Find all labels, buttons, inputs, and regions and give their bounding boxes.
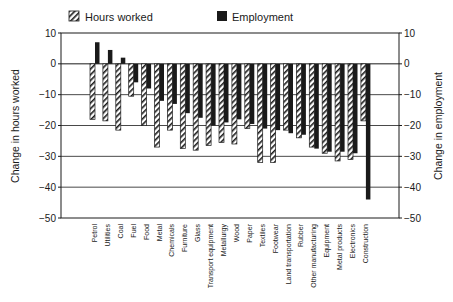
bar-employment xyxy=(263,64,268,129)
tick-label: −50 xyxy=(39,213,56,224)
tick-label: −40 xyxy=(404,182,421,193)
bar-employment xyxy=(250,64,255,124)
category-label: Construction xyxy=(362,224,369,263)
category-label: Coal xyxy=(117,224,124,239)
category-label: Electronics xyxy=(349,224,356,259)
category-label: Paper xyxy=(246,223,254,242)
category-label: Metallurgy xyxy=(220,224,228,257)
tick-label: −50 xyxy=(404,213,421,224)
bar-hours-worked xyxy=(116,64,121,130)
bars xyxy=(90,42,370,199)
bar-employment xyxy=(108,50,113,64)
category-label: Petrol xyxy=(91,224,98,243)
category-label: Footwear xyxy=(272,223,279,253)
bar-hours-worked xyxy=(322,64,327,153)
tick-label: 10 xyxy=(45,28,57,39)
bar-employment xyxy=(95,42,100,64)
category-label: Metal products xyxy=(336,224,344,270)
bar-hours-worked xyxy=(103,64,108,121)
bar-employment xyxy=(160,64,165,101)
bar-hours-worked xyxy=(180,64,185,149)
bar-employment xyxy=(340,64,345,152)
bar-employment xyxy=(237,64,242,119)
category-label: Transport equipment xyxy=(207,224,215,288)
tick-label: 0 xyxy=(50,58,56,69)
bar-hours-worked xyxy=(361,64,366,121)
bar-employment xyxy=(198,64,203,118)
left-axis-title: Change in hours worked xyxy=(9,69,21,183)
category-label: Furniture xyxy=(181,224,188,252)
bar-hours-worked xyxy=(348,64,353,160)
tick-label: −20 xyxy=(404,120,421,131)
category-label: Equipment xyxy=(323,224,331,258)
bar-employment xyxy=(172,64,177,104)
legend-label-employment: Employment xyxy=(232,11,293,23)
bar-hours-worked xyxy=(90,64,95,119)
bar-hours-worked xyxy=(335,64,340,161)
tick-label: −30 xyxy=(39,151,56,162)
bar-chart: Hours worked Employment 100−10−20−30−40−… xyxy=(0,0,453,302)
category-label: Land transportation xyxy=(285,224,293,284)
category-label: Rubber xyxy=(297,223,304,247)
bar-hours-worked xyxy=(142,64,147,126)
bar-employment xyxy=(276,64,281,130)
category-label: Metal xyxy=(156,224,163,242)
legend-item-hours-worked: Hours worked xyxy=(69,11,153,23)
bar-hours-worked xyxy=(155,64,160,147)
category-label: Wood xyxy=(233,224,240,242)
category-label: Textiles xyxy=(259,224,266,248)
bar-employment xyxy=(185,64,190,113)
bar-employment xyxy=(314,64,319,149)
bar-hours-worked xyxy=(167,64,172,130)
category-label: Fuel xyxy=(130,224,137,238)
tick-label: −10 xyxy=(404,89,421,100)
tick-label: 10 xyxy=(404,28,416,39)
bar-hours-worked xyxy=(296,64,301,138)
bar-employment xyxy=(327,64,332,152)
bar-employment xyxy=(301,64,306,135)
bar-employment xyxy=(353,64,358,153)
bar-hours-worked xyxy=(309,64,314,147)
tick-label: −30 xyxy=(404,151,421,162)
solid-swatch-icon xyxy=(217,11,227,21)
bar-hours-worked xyxy=(206,64,211,146)
bar-hours-worked xyxy=(245,64,250,129)
bar-hours-worked xyxy=(232,64,237,144)
bar-hours-worked xyxy=(219,64,224,143)
hatched-swatch-icon xyxy=(69,11,79,21)
category-label: Chemicals xyxy=(168,224,175,257)
bar-hours-worked xyxy=(129,64,134,96)
legend-item-employment: Employment xyxy=(217,11,293,23)
legend-label-hours: Hours worked xyxy=(85,11,153,23)
bar-hours-worked xyxy=(258,64,263,163)
category-label: Other manufacturing xyxy=(310,224,318,288)
bar-hours-worked xyxy=(193,64,198,150)
right-axis-title: Change in employment xyxy=(432,72,444,180)
bar-hours-worked xyxy=(284,64,289,130)
bar-hours-worked xyxy=(271,64,276,163)
category-label: Food xyxy=(143,224,150,240)
bar-employment xyxy=(147,64,152,89)
category-label: Glass xyxy=(194,224,201,242)
bar-employment xyxy=(211,64,216,126)
left-y-axis: 100−10−20−30−40−50 xyxy=(39,28,61,224)
bar-employment xyxy=(366,64,371,200)
tick-label: 0 xyxy=(404,58,410,69)
bar-employment xyxy=(289,64,294,133)
tick-label: −40 xyxy=(39,182,56,193)
category-label: Utilities xyxy=(104,224,111,247)
legend: Hours worked Employment xyxy=(69,11,293,23)
bar-employment xyxy=(121,58,126,64)
tick-label: −20 xyxy=(39,120,56,131)
category-labels: PetrolUtilitiesCoalFuelFoodMetalChemical… xyxy=(91,223,369,288)
right-y-axis: 100−10−20−30−40−50 xyxy=(399,28,421,224)
tick-label: −10 xyxy=(39,89,56,100)
bar-employment xyxy=(224,64,229,123)
bar-employment xyxy=(134,64,139,82)
